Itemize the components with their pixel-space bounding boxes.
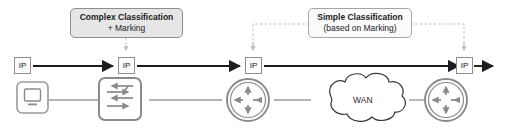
simple-classification-line1: Simple Classification xyxy=(316,12,404,23)
packet-label-1: IP xyxy=(19,61,27,70)
simple-classification-label: Simple Classification (based on Marking) xyxy=(308,8,412,38)
complex-classification-line1: Complex Classification xyxy=(78,12,175,23)
network-qos-diagram: WAN IP IP IP IP Complex Classification +… xyxy=(0,0,507,132)
router-icon-left xyxy=(227,79,269,121)
packet-box-4: IP xyxy=(456,57,473,74)
complex-classification-label: Complex Classification + Marking xyxy=(70,8,183,38)
wan-label: WAN xyxy=(353,95,373,105)
packet-box-3: IP xyxy=(245,57,262,74)
packet-label-2: IP xyxy=(123,61,131,70)
monitor-icon xyxy=(17,82,48,113)
packet-label-4: IP xyxy=(461,61,469,70)
complex-classification-line2: + Marking xyxy=(78,23,175,34)
packet-label-3: IP xyxy=(250,61,258,70)
router-icon-right xyxy=(425,79,467,121)
packet-box-2: IP xyxy=(118,57,135,74)
simple-classification-line2: (based on Marking) xyxy=(316,23,404,34)
switch-icon xyxy=(99,78,141,120)
packet-box-1: IP xyxy=(14,57,31,74)
